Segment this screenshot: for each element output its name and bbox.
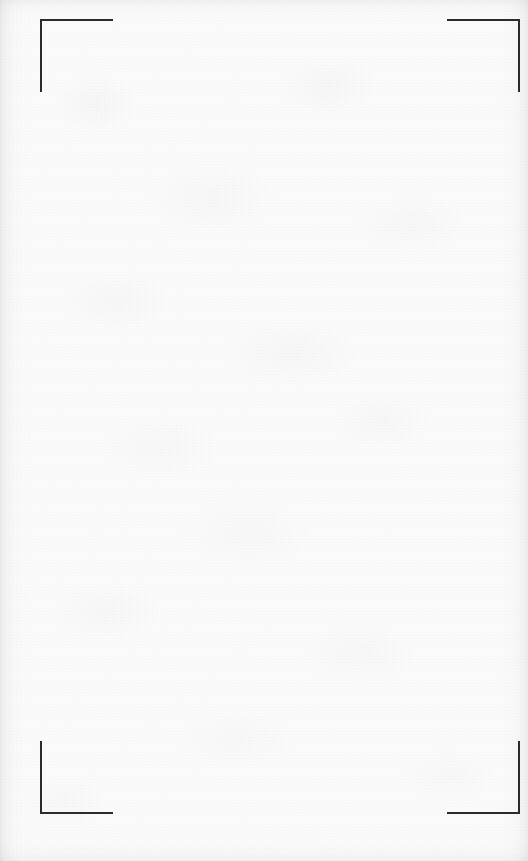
- page-content-area: [40, 19, 518, 812]
- crop-mark-bottom-right-vertical-arm: [518, 741, 520, 814]
- scanned-page: [0, 0, 528, 861]
- crop-mark-top-right-vertical-arm: [518, 19, 520, 92]
- crop-mark-bottom-right-horizontal-arm: [447, 812, 520, 814]
- crop-mark-bottom-left-horizontal-arm: [40, 812, 113, 814]
